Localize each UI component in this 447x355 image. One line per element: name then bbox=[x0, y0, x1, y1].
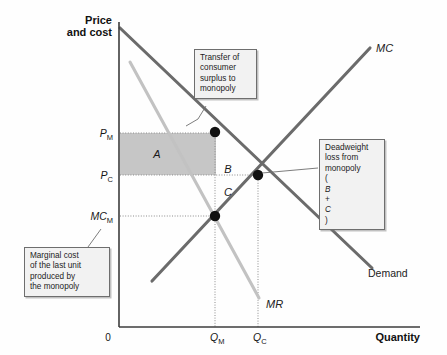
y-tick-pm: PM bbox=[100, 127, 113, 142]
formula-term-c: C bbox=[325, 205, 380, 215]
x-tick-qc-sub: C bbox=[261, 337, 267, 346]
callout-transfer-line-3: surplus to bbox=[200, 74, 252, 84]
marginal-cost-point bbox=[210, 211, 220, 221]
callout-marginal-cost: Marginal cost of the last unit produced … bbox=[24, 247, 110, 297]
region-label-b: B bbox=[224, 163, 231, 175]
y-tick-pc-sub: C bbox=[108, 175, 114, 184]
callout-marginal-line-3: produced by bbox=[30, 272, 105, 282]
x-tick-qm-sub: M bbox=[218, 337, 224, 346]
x-tick-qc-base: Q bbox=[253, 331, 261, 343]
region-label-c: C bbox=[224, 186, 232, 198]
callout-transfer-line-1: Transfer of bbox=[200, 53, 252, 63]
x-tick-qm-base: Q bbox=[210, 331, 218, 343]
callout-deadweight-formula: (B + C) bbox=[325, 174, 380, 226]
mc-curve-label: MC bbox=[376, 42, 393, 54]
y-tick-pm-base: P bbox=[100, 127, 107, 139]
callout-transfer-of-consumer-surplus: Transfer of consumer surplus to monopoly bbox=[194, 49, 257, 99]
x-axis-title: Quantity bbox=[375, 331, 420, 343]
callout-deadweight-line-3: monopoly bbox=[325, 164, 380, 174]
formula-plus: + bbox=[325, 195, 380, 205]
mr-curve-label: MR bbox=[266, 298, 283, 310]
formula-open-paren: ( bbox=[325, 174, 380, 184]
x-tick-qm: QM bbox=[210, 331, 224, 346]
callout-marginal-line-2: of the last unit bbox=[30, 261, 105, 271]
transfer-rectangle bbox=[120, 133, 216, 175]
leader-marginal bbox=[88, 229, 101, 247]
competitive-point bbox=[253, 170, 263, 180]
formula-term-b: B bbox=[325, 185, 380, 195]
monopoly-point bbox=[210, 127, 220, 137]
callout-deadweight-loss: Deadweight loss from monopoly (B + C) bbox=[319, 139, 385, 230]
y-axis-title-line1: Price bbox=[85, 14, 112, 26]
formula-close-paren: ) bbox=[325, 216, 380, 226]
y-axis-title-line2: and cost bbox=[67, 26, 113, 38]
y-tick-mcm-sub: M bbox=[107, 216, 113, 225]
region-label-a: A bbox=[152, 148, 160, 160]
y-tick-pm-sub: M bbox=[107, 133, 113, 142]
y-tick-mcm: MCM bbox=[90, 210, 113, 225]
demand-curve-label: Demand bbox=[368, 267, 408, 279]
callout-transfer-line-2: consumer bbox=[200, 63, 252, 73]
callout-transfer-line-4: monopoly bbox=[200, 84, 252, 94]
callout-deadweight-line-2: loss from bbox=[325, 153, 380, 163]
y-tick-pc-base: P bbox=[101, 169, 108, 181]
x-tick-qc: QC bbox=[253, 331, 267, 346]
monopoly-welfare-diagram: Price and cost Quantity 0 PM PC MCM QM Q… bbox=[0, 0, 447, 355]
callout-marginal-line-4: the monopoly bbox=[30, 282, 105, 292]
y-tick-pc: PC bbox=[101, 169, 114, 184]
origin-label: 0 bbox=[105, 332, 111, 343]
y-tick-mcm-base: MC bbox=[90, 210, 107, 222]
callout-deadweight-line-1: Deadweight bbox=[325, 143, 380, 153]
callout-marginal-line-1: Marginal cost bbox=[30, 251, 105, 261]
